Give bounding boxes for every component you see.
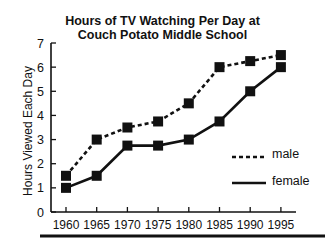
legend-label-male: male bbox=[272, 147, 299, 161]
data-marker-male bbox=[153, 116, 163, 126]
y-tick-label: 0 bbox=[37, 206, 44, 220]
data-marker-male bbox=[122, 123, 132, 133]
y-tick-label: 1 bbox=[37, 181, 44, 195]
y-tick-label: 7 bbox=[37, 37, 44, 51]
plot-area: 0123456719601965197019751980198519901995 bbox=[0, 0, 325, 244]
x-tick-label: 1965 bbox=[83, 218, 110, 232]
x-tick-label: 1995 bbox=[268, 218, 295, 232]
y-tick-label: 2 bbox=[37, 157, 44, 171]
y-tick-label: 3 bbox=[37, 133, 44, 147]
data-marker-male bbox=[245, 56, 255, 66]
data-marker-female bbox=[122, 141, 132, 151]
x-tick-label: 1970 bbox=[114, 218, 141, 232]
x-tick-label: 1990 bbox=[237, 218, 264, 232]
line-chart: Hours of TV Watching Per Day at Couch Po… bbox=[0, 0, 325, 244]
data-marker-male bbox=[276, 50, 286, 60]
x-tick-label: 1975 bbox=[145, 218, 172, 232]
data-marker-male bbox=[61, 171, 71, 181]
y-tick-label: 5 bbox=[37, 85, 44, 99]
data-marker-male bbox=[92, 135, 102, 145]
data-marker-female bbox=[215, 116, 225, 126]
data-marker-female bbox=[184, 135, 194, 145]
y-tick-label: 4 bbox=[37, 109, 44, 123]
data-marker-female bbox=[245, 86, 255, 96]
data-marker-female bbox=[61, 183, 71, 193]
data-marker-female bbox=[276, 62, 286, 72]
data-marker-male bbox=[184, 98, 194, 108]
x-tick-label: 1980 bbox=[175, 218, 202, 232]
data-marker-male bbox=[215, 62, 225, 72]
series-line-female bbox=[66, 67, 281, 188]
x-tick-label: 1985 bbox=[206, 218, 233, 232]
data-marker-female bbox=[153, 141, 163, 151]
x-tick-label: 1960 bbox=[53, 218, 80, 232]
y-tick-label: 6 bbox=[37, 61, 44, 75]
legend-label-female: female bbox=[272, 174, 310, 188]
data-marker-female bbox=[92, 171, 102, 181]
